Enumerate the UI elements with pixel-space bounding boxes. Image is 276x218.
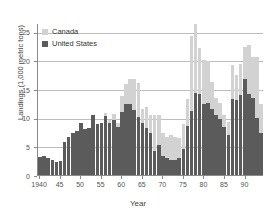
- y-tick-label: 20: [4, 58, 30, 65]
- y-tick-label: 15: [4, 87, 30, 94]
- x-tick-mark: [121, 176, 122, 179]
- x-tick-mark: [80, 176, 81, 179]
- y-tick-label: 10: [4, 115, 30, 122]
- legend-label-canada: Canada: [52, 27, 78, 36]
- x-tick-mark: [39, 176, 40, 179]
- y-tick-label: 0: [4, 173, 30, 180]
- x-tick-mark: [183, 176, 184, 179]
- x-tick-mark: [203, 176, 204, 179]
- legend-item-canada: Canada: [42, 27, 97, 36]
- y-tick-label: 5: [4, 144, 30, 151]
- x-tick-mark: [101, 176, 102, 179]
- x-axis-title: Year: [0, 199, 276, 208]
- bar-segment-united-states: [259, 133, 263, 175]
- x-tick-mark: [142, 176, 143, 179]
- y-axis-title: Landings (1,000 metric tons): [16, 0, 25, 148]
- bar-column: [259, 24, 263, 175]
- bar-segment-canada: [259, 104, 263, 133]
- x-tick-mark: [245, 176, 246, 179]
- legend-swatch-united-states: [42, 41, 48, 47]
- legend-item-united-states: United States: [42, 39, 97, 48]
- y-tick-label: 25: [4, 29, 30, 36]
- x-tick-mark: [224, 176, 225, 179]
- x-tick-label: 90: [233, 181, 257, 188]
- y-tick-mark: [34, 176, 37, 177]
- legend-swatch-canada: [42, 29, 48, 35]
- legend-label-united-states: United States: [52, 39, 97, 48]
- x-tick-mark: [162, 176, 163, 179]
- legend: Canada United States: [42, 27, 97, 51]
- landings-bar-chart: Landings (1,000 metric tons) 0510152025 …: [0, 0, 276, 218]
- x-tick-mark: [60, 176, 61, 179]
